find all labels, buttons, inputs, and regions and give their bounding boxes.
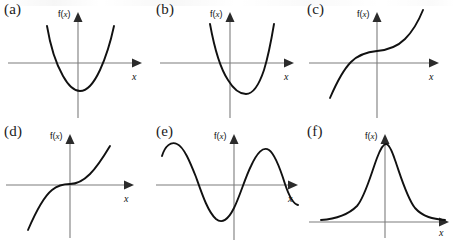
panel-e-curve [162, 143, 298, 221]
panel-c-x-axis-arrow [429, 59, 439, 68]
panel-d-plot [0, 122, 152, 244]
panel-e: (e) f(x) x [152, 122, 304, 244]
panel-c-plot [303, 0, 455, 122]
panel-a-plot [0, 0, 152, 122]
panel-c-y-axis-arrow [373, 12, 382, 22]
panel-f-y-axis-arrow [381, 134, 390, 144]
panel-d-x-axis-arrow [124, 181, 134, 190]
panel-d-curve [28, 146, 110, 230]
panel-e-x-axis-arrow [288, 181, 298, 190]
panel-e-y-axis-arrow [230, 134, 239, 144]
panel-a-x-axis-arrow [132, 59, 142, 68]
panel-b-x-axis-arrow [284, 59, 294, 68]
panel-e-plot [152, 122, 304, 244]
panel-b-plot [152, 0, 304, 122]
panel-b-curve [210, 24, 274, 94]
panel-a-y-axis-arrow [74, 12, 83, 22]
panel-f-plot [303, 122, 455, 244]
panel-c: (c) f(x) x [303, 0, 455, 122]
panel-b: (b) f(x) x [152, 0, 304, 122]
panel-f-curve [321, 144, 445, 220]
panel-d-y-axis-arrow [66, 134, 75, 144]
figure-sheet: (a) f(x) x (b) f(x) x [0, 0, 455, 245]
panel-f: (f) f(x) x [303, 122, 455, 244]
panel-a: (a) f(x) x [0, 0, 152, 122]
panel-a-curve [47, 26, 114, 91]
panel-b-y-axis-arrow [226, 12, 235, 22]
panel-d: (d) f(x) x [0, 122, 152, 244]
